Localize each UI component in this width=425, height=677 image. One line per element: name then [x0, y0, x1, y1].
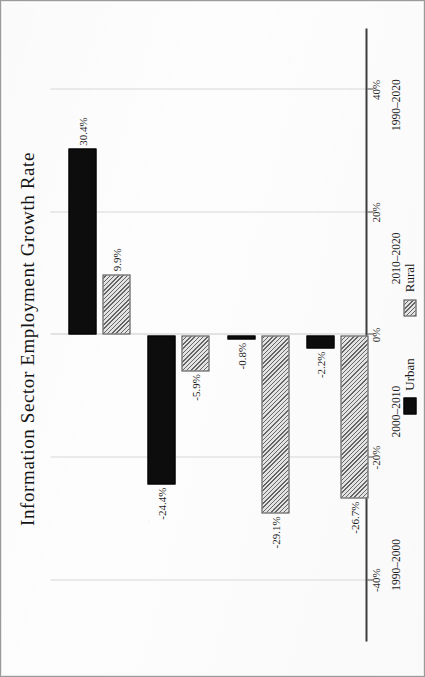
legend-swatch-rural-icon	[403, 299, 416, 316]
bar-rural[interactable]: -26.7%	[340, 335, 368, 499]
bar-rural[interactable]: -5.9%	[181, 335, 209, 371]
category-label: 1990–2020	[389, 79, 401, 131]
chart-title: Information Sector Employment Growth Rat…	[2, 2, 38, 675]
axis-tick-label-0: 0%	[369, 327, 381, 342]
bar-value-label: 30.4%	[76, 117, 88, 145]
bar-rural[interactable]: 9.9%	[102, 274, 130, 335]
bar-value-label: -26.7%	[348, 501, 360, 533]
plot-area: 40%20%0%-20%-40%30.4%9.9%1990–2000-24.4%…	[50, 28, 367, 641]
scanned-page-frame: Information Sector Employment Growth Rat…	[0, 0, 425, 677]
category-label: 2000–2010	[389, 385, 401, 437]
bar-urban[interactable]: 30.4%	[68, 148, 96, 334]
bar-group: -2.2%-26.7%	[288, 28, 367, 641]
rotated-figure-wrapper: Information Sector Employment Growth Rat…	[2, 2, 423, 675]
axis-tick-label-40: 40%	[369, 79, 381, 99]
legend-item-rural[interactable]: Rural	[401, 263, 417, 316]
bar-urban[interactable]: -2.2%	[306, 335, 334, 348]
legend-swatch-urban-icon	[403, 397, 416, 414]
bar-value-label: -5.9%	[189, 374, 201, 401]
plot-wrapper: 40%20%0%-20%-40%30.4%9.9%1990–2000-24.4%…	[44, 28, 423, 641]
axis-tick-label--20: -20%	[369, 445, 381, 469]
legend-label-urban: Urban	[401, 358, 417, 391]
bar-group: 30.4%9.9%	[50, 28, 129, 641]
bar-group: -24.4%-5.9%	[129, 28, 208, 641]
bar-value-label: -24.4%	[155, 487, 167, 519]
bar-urban[interactable]: -24.4%	[147, 335, 175, 485]
bar-rural[interactable]: -29.1%	[261, 335, 289, 513]
chart-legend: Urban Rural	[401, 2, 417, 675]
category-label: 2010–2020	[389, 232, 401, 284]
category-label: 1990–2000	[389, 539, 401, 591]
legend-label-rural: Rural	[401, 263, 417, 292]
chart-figure: Information Sector Employment Growth Rat…	[2, 2, 423, 675]
bar-value-label: -0.8%	[235, 342, 247, 369]
legend-item-urban[interactable]: Urban	[401, 358, 417, 415]
axis-tick-label-20: 20%	[369, 202, 381, 222]
bar-value-label: -2.2%	[314, 351, 326, 378]
bar-urban[interactable]: -0.8%	[227, 335, 255, 340]
axis-tick-label--40: -40%	[369, 568, 381, 592]
bar-value-label: 9.9%	[110, 248, 122, 271]
bar-group: -0.8%-29.1%	[209, 28, 288, 641]
bar-value-label: -29.1%	[269, 516, 281, 548]
